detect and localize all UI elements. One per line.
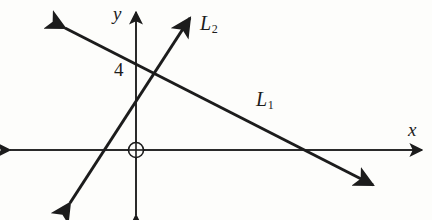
geometry-figure: y x 4 L2 L1	[0, 0, 432, 220]
line-l2-label: L2	[200, 12, 218, 37]
line-l2-label-subscript: 2	[212, 22, 218, 36]
y-intercept-value-label: 4	[114, 59, 124, 81]
line-l2	[70, 18, 190, 203]
line-l2-label-letter: L	[200, 12, 211, 34]
y-axis-label: y	[113, 3, 121, 25]
line-l1	[65, 28, 373, 185]
line-l1-label: L1	[256, 88, 274, 113]
line-l1-label-subscript: 1	[268, 98, 274, 112]
x-axis-label: x	[408, 119, 416, 141]
line-l1-label-letter: L	[256, 88, 267, 110]
